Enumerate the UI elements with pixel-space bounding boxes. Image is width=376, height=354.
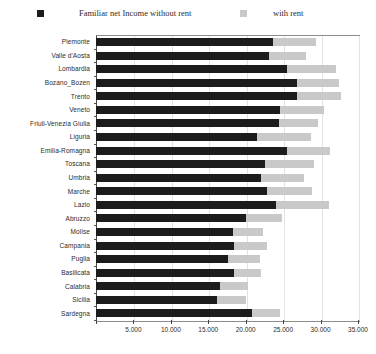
x-axis-tick: [283, 320, 284, 324]
x-axis-tick: [208, 320, 209, 324]
bar-segment-with-rent: [228, 255, 260, 263]
gridline: [359, 36, 360, 321]
stacked-bar: [96, 228, 263, 236]
stacked-bar: [96, 133, 311, 141]
dark-square-marker-icon: [37, 10, 44, 17]
bar-row: [96, 266, 358, 280]
x-axis-tick: [171, 320, 172, 324]
bar-segment-with-rent: [273, 38, 316, 46]
stacked-bar: [96, 160, 314, 168]
stacked-bar: [96, 147, 330, 155]
bar-row: [96, 157, 358, 171]
y-axis-labels: PiemonteValle d'AostaLombardiaBozano_Boz…: [0, 35, 94, 320]
bar-row: [96, 62, 358, 76]
stacked-bar: [96, 269, 261, 277]
stacked-bar: [96, 92, 341, 100]
y-axis-tick: [94, 266, 96, 267]
x-axis-label: 10.000: [161, 326, 181, 333]
y-axis-tick: [94, 279, 96, 280]
bar-segment-with-rent: [297, 92, 340, 100]
stacked-bar: [96, 201, 329, 209]
y-axis-tick: [94, 184, 96, 185]
bar-row: [96, 306, 358, 320]
stacked-bar: [96, 174, 304, 182]
bar-row: [96, 130, 358, 144]
y-axis-label: Valle d'Aosta: [51, 49, 90, 63]
bar-segment-with-rent: [246, 214, 282, 222]
bar-row: [96, 103, 358, 117]
bar-segment-without-rent: [96, 52, 269, 60]
x-axis-label: 30.000: [311, 326, 331, 333]
y-axis-label: Umbria: [68, 171, 90, 185]
bar-row: [96, 293, 358, 307]
bar-segment-without-rent: [96, 119, 279, 127]
stacked-bar: [96, 119, 318, 127]
y-axis-label: Sicilia: [72, 293, 90, 307]
y-axis-label: Marche: [68, 184, 90, 198]
bar-segment-with-rent: [279, 119, 318, 127]
y-axis-tick: [94, 211, 96, 212]
y-axis-label: Lombardia: [58, 62, 90, 76]
bar-row: [96, 279, 358, 293]
stacked-bar: [96, 106, 324, 114]
y-axis-tick: [94, 76, 96, 77]
y-axis-tick: [94, 144, 96, 145]
bar-segment-with-rent: [220, 282, 248, 290]
x-axis-label: 25.000: [273, 326, 293, 333]
bar-segment-without-rent: [96, 201, 276, 209]
bar-segment-with-rent: [267, 187, 312, 195]
stacked-bar: [96, 38, 316, 46]
x-axis-labels: 5.00010.00015.00020.00025.00030.00035.00…: [0, 326, 376, 340]
y-axis-label: Basilicata: [61, 266, 90, 280]
bar-segment-without-rent: [96, 187, 267, 195]
bar-segment-without-rent: [96, 228, 233, 236]
bar-row: [96, 211, 358, 225]
y-axis-label: Liguria: [70, 130, 90, 144]
bar-segment-without-rent: [96, 296, 217, 304]
y-axis-label: Campania: [60, 239, 90, 253]
stacked-bar: [96, 79, 339, 87]
bar-segment-with-rent: [265, 160, 314, 168]
legend-item-with-rent: with rent: [240, 8, 303, 18]
bar-row: [96, 89, 358, 103]
bar-row: [96, 116, 358, 130]
bar-segment-with-rent: [217, 296, 245, 304]
stacked-bar: [96, 296, 246, 304]
bar-segment-without-rent: [96, 147, 287, 155]
x-axis-label: 15.000: [198, 326, 218, 333]
bar-segment-without-rent: [96, 309, 252, 317]
y-axis-label: Piemonte: [62, 35, 90, 49]
x-axis-tick: [96, 320, 97, 324]
legend-label-without-rent: Familiar net Income without rent: [79, 8, 191, 18]
legend-item-without-rent: Familiar net Income without rent: [37, 8, 191, 18]
bar-segment-without-rent: [96, 92, 297, 100]
y-axis-label: Bozano_Bozen: [45, 76, 90, 90]
bar-row: [96, 76, 358, 90]
bar-row: [96, 225, 358, 239]
y-axis-label: Friuli-Venezia Giulia: [30, 116, 90, 130]
stacked-bar: [96, 309, 280, 317]
y-axis-tick: [94, 225, 96, 226]
bar-segment-with-rent: [261, 174, 304, 182]
bar-segment-with-rent: [297, 79, 339, 87]
bar-row: [96, 144, 358, 158]
x-axis-tick: [321, 320, 322, 324]
x-axis-tick: [358, 320, 359, 324]
bar-segment-with-rent: [287, 65, 336, 73]
bar-segment-with-rent: [280, 106, 324, 114]
y-axis-tick: [94, 49, 96, 50]
stacked-bar: [96, 214, 282, 222]
y-axis-tick: [94, 306, 96, 307]
bar-segment-with-rent: [233, 228, 263, 236]
y-axis-label: Molise: [71, 225, 90, 239]
y-axis-tick: [94, 293, 96, 294]
y-axis-label: Calabria: [65, 279, 90, 293]
bar-segment-without-rent: [96, 65, 287, 73]
y-axis-tick: [94, 171, 96, 172]
y-axis-label: Veneto: [69, 103, 90, 117]
stacked-bar: [96, 242, 267, 250]
bar-segment-with-rent: [257, 133, 311, 141]
bar-row: [96, 171, 358, 185]
bar-row: [96, 35, 358, 49]
bar-row: [96, 252, 358, 266]
